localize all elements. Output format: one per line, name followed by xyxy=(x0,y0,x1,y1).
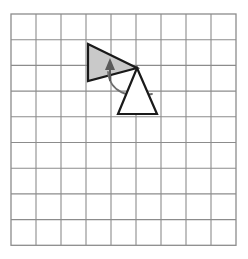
figure-root xyxy=(0,0,248,259)
rotation-figure-svg xyxy=(0,0,248,259)
square-grid xyxy=(11,14,236,245)
grid-background xyxy=(11,14,236,245)
